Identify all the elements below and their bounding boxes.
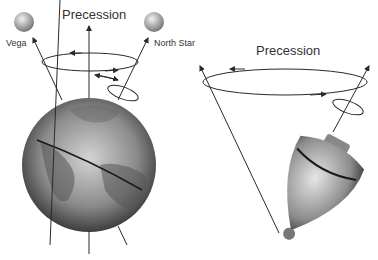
spinning-top [254, 122, 371, 256]
vega-label: Vega [6, 38, 27, 48]
right-precession-label: Precession [256, 43, 320, 58]
precession-diagram: Precession Vega North Star Precession [0, 0, 378, 260]
north-star [144, 12, 164, 32]
north-star-label: North Star [154, 38, 195, 48]
vega-star [14, 12, 34, 32]
left-precession-label: Precession [62, 7, 126, 22]
